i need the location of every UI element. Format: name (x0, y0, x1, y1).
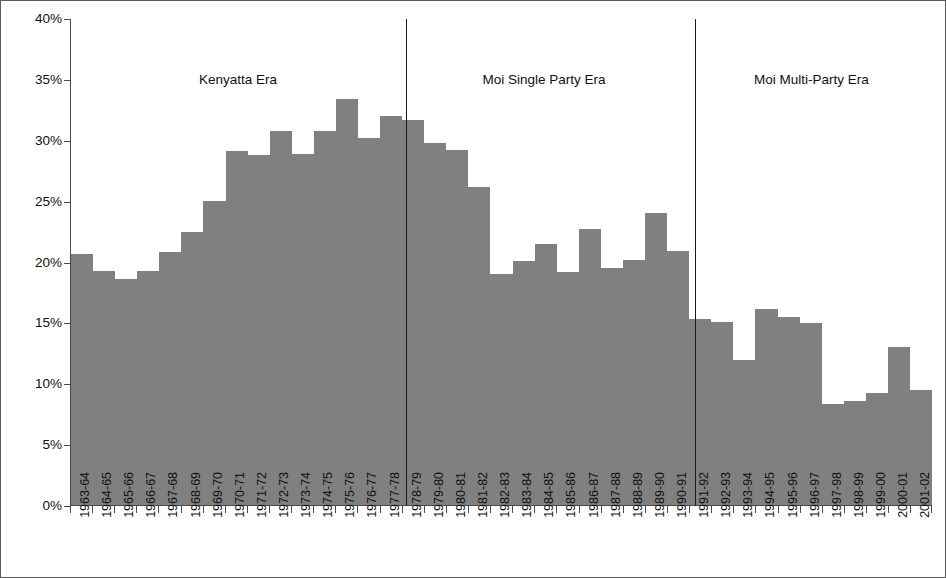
x-axis-label-cell: 1999-00 (866, 513, 888, 578)
x-axis-label-cell: 1969-70 (203, 513, 225, 578)
x-axis-tick-label-text: 1980-81 (455, 472, 468, 518)
y-axis-tick-label: 35% (35, 73, 62, 87)
x-axis-tick-label-text: 1996-97 (809, 472, 822, 518)
bar[interactable] (513, 261, 535, 505)
x-axis-tick-label-text: 1977-78 (389, 472, 402, 518)
bar[interactable] (137, 271, 159, 505)
x-axis-label-cell: 1966-67 (136, 513, 158, 578)
x-axis-tick-label-text: 1995-96 (787, 472, 800, 518)
x-axis-labels: 1963-641964-651965-661966-671967-681968-… (70, 513, 932, 578)
x-axis-tick-label-text: 1967-68 (167, 472, 180, 518)
bar[interactable] (468, 187, 490, 505)
bar[interactable] (270, 131, 292, 505)
x-axis-tick-label-text: 1994-95 (764, 472, 777, 518)
x-axis-tick-label-text: 1978-79 (411, 472, 424, 518)
chart-figure: 0%5%10%15%20%25%30%35%40% 1963-641964-65… (0, 0, 946, 578)
x-axis-tick-label-text: 2001-02 (919, 472, 932, 518)
x-axis-tick-label-text: 2000-01 (897, 472, 910, 518)
x-axis-label-cell: 1967-68 (158, 513, 180, 578)
x-axis-tick-label-text: 1969-70 (212, 472, 225, 518)
x-axis-tick-label-text: 1972-73 (278, 472, 291, 518)
x-axis-label-cell: 1997-98 (822, 513, 844, 578)
moi-single-party-era-label: Moi Single Party Era (483, 73, 606, 87)
x-axis-label-cell: 1970-71 (225, 513, 247, 578)
y-axis-tick-label: 40% (35, 12, 62, 26)
x-axis-label-cell: 1976-77 (357, 513, 379, 578)
x-axis-tick-label-text: 1998-99 (853, 472, 866, 518)
x-axis-label-cell: 2001-02 (910, 513, 932, 578)
bar[interactable] (203, 201, 225, 505)
bar[interactable] (645, 213, 667, 505)
x-axis-tick-label-text: 1987-88 (610, 472, 623, 518)
bar[interactable] (601, 268, 623, 505)
bar[interactable] (535, 244, 557, 505)
x-axis-tick-label-text: 1999-00 (875, 472, 888, 518)
bar[interactable] (181, 232, 203, 505)
x-axis-tick-label-text: 1993-94 (742, 472, 755, 518)
y-axis-tick-label: 20% (35, 256, 62, 270)
x-axis-label-cell: 1972-73 (269, 513, 291, 578)
bar[interactable] (623, 260, 645, 505)
x-axis-label-cell: 1989-90 (645, 513, 667, 578)
bar[interactable] (380, 116, 402, 505)
y-axis-tick-label: 5% (42, 438, 62, 452)
x-axis-label-cell: 1998-99 (844, 513, 866, 578)
x-axis-tick-label-text: 1984-85 (543, 472, 556, 518)
bar[interactable] (557, 272, 579, 505)
x-axis-tick-label-text: 1983-84 (521, 472, 534, 518)
bar[interactable] (93, 271, 115, 505)
x-axis-label-cell: 1963-64 (70, 513, 92, 578)
y-axis: 0%5%10%15%20%25%30%35%40% (1, 1, 70, 578)
x-axis-label-cell: 1977-78 (380, 513, 402, 578)
x-axis-label-cell: 1996-97 (800, 513, 822, 578)
x-axis-label-cell: 1988-89 (623, 513, 645, 578)
x-axis-tick-label-text: 1965-66 (123, 472, 136, 518)
x-axis-tick-label-text: 1964-65 (101, 472, 114, 518)
y-axis-tick-label: 10% (35, 378, 62, 392)
x-axis-tick-label-text: 1970-71 (234, 472, 247, 518)
bar[interactable] (424, 143, 446, 505)
bar[interactable] (292, 154, 314, 505)
x-axis-label-cell: 1993-94 (733, 513, 755, 578)
x-axis-tick-label-text: 1973-74 (300, 472, 313, 518)
bar[interactable] (336, 99, 358, 505)
bar[interactable] (226, 151, 248, 505)
divider-kenyatta-moi-single (406, 19, 407, 506)
x-axis-tick-label-text: 1990-91 (676, 472, 689, 518)
x-axis-tick-label-text: 1979-80 (433, 472, 446, 518)
bar[interactable] (71, 254, 93, 506)
x-axis-tick-label-text: 1975-76 (344, 472, 357, 518)
x-axis-tick-label-text: 1976-77 (366, 472, 379, 518)
y-axis-tick-label: 25% (35, 195, 62, 209)
bar[interactable] (159, 252, 181, 505)
x-axis-label-cell: 1974-75 (313, 513, 335, 578)
x-axis-label-cell: 1984-85 (534, 513, 556, 578)
x-axis-label-cell: 1968-69 (181, 513, 203, 578)
bar[interactable] (446, 150, 468, 505)
x-axis-tick-label-text: 1988-89 (632, 472, 645, 518)
x-axis-tick-label-text: 1966-67 (145, 472, 158, 518)
x-axis-label-cell: 1992-93 (711, 513, 733, 578)
moi-multi-party-era-label: Moi Multi-Party Era (754, 73, 869, 87)
x-axis-tick-label-text: 1997-98 (831, 472, 844, 518)
bar[interactable] (490, 274, 512, 505)
y-axis-tick-label: 0% (42, 499, 62, 513)
x-axis-tick-label-text: 1971-72 (256, 472, 269, 518)
bar[interactable] (667, 251, 689, 505)
x-axis-tick-label-text: 1989-90 (654, 472, 667, 518)
x-axis-tick-label-text: 1982-83 (499, 472, 512, 518)
bar[interactable] (314, 131, 336, 505)
x-axis-label-cell: 1971-72 (247, 513, 269, 578)
bar[interactable] (248, 155, 270, 505)
y-axis-tick-label: 15% (35, 317, 62, 331)
x-axis-label-cell: 1978-79 (402, 513, 424, 578)
x-axis-label-cell: 1979-80 (424, 513, 446, 578)
x-axis-tick-label-text: 1963-64 (79, 472, 92, 518)
x-axis-label-cell: 1985-86 (556, 513, 578, 578)
divider-moi-single-multi (695, 19, 696, 506)
x-axis-label-cell: 1980-81 (446, 513, 468, 578)
x-axis-label-cell: 1965-66 (114, 513, 136, 578)
bar[interactable] (579, 229, 601, 505)
x-axis-label-cell: 1991-92 (689, 513, 711, 578)
bar[interactable] (358, 138, 380, 505)
